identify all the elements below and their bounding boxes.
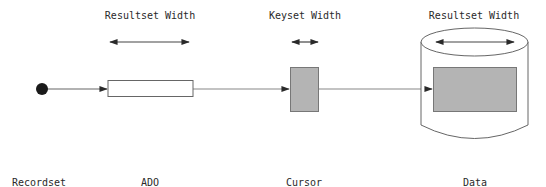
recordset-label-line1: Recordset (4, 176, 74, 187)
ado-cache-width-label: Resultset Width (100, 9, 200, 22)
data-source-node (421, 28, 528, 139)
recordset-object-node (36, 83, 48, 95)
cursor-service-label-line1: Cursor (269, 176, 339, 187)
ado-cache-node (108, 81, 193, 97)
ado-cache-label: ADO Cache (115, 150, 185, 187)
cursor-service-node (291, 68, 319, 112)
cursor-service-label: Cursor Service (269, 150, 339, 187)
ado-cache-label-line1: ADO (115, 176, 185, 187)
recordset-object-label: Recordset Object (4, 150, 74, 187)
data-source-width-label: Resultset Width (424, 9, 524, 22)
data-source-label-line1: Data (440, 176, 510, 187)
data-source-label: Data Source (440, 150, 510, 187)
cursor-service-width-label: Keyset Width (255, 9, 355, 22)
